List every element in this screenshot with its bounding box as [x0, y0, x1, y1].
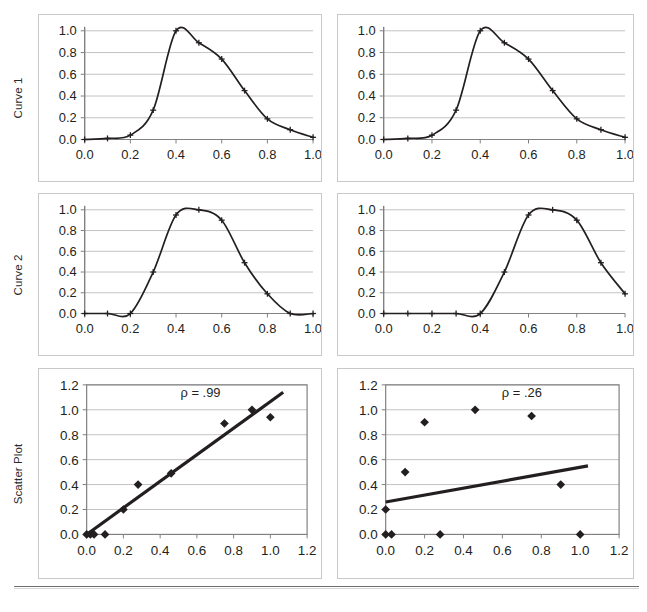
svg-text:0.8: 0.8 — [568, 147, 586, 162]
svg-text:0.0: 0.0 — [375, 147, 393, 162]
svg-text:0.4: 0.4 — [167, 147, 185, 162]
row-label-scatter-plot-text: Scatter Plot — [12, 443, 24, 504]
svg-text:ρ = .26: ρ = .26 — [502, 385, 542, 400]
svg-text:1.0: 1.0 — [616, 147, 633, 162]
row-label-curve-2-text: Curve 2 — [12, 254, 24, 295]
svg-text:1.2: 1.2 — [60, 378, 79, 393]
svg-text:1.2: 1.2 — [610, 543, 629, 558]
svg-text:0.0: 0.0 — [359, 527, 378, 542]
svg-text:1.0: 1.0 — [358, 202, 376, 217]
panel-curve1-left: 0.00.20.40.60.81.00.00.20.40.60.81.0 — [38, 14, 322, 182]
svg-text:0.8: 0.8 — [60, 428, 79, 443]
svg-text:1.0: 1.0 — [60, 403, 79, 418]
svg-text:0.8: 0.8 — [59, 223, 77, 238]
svg-text:0.0: 0.0 — [358, 306, 376, 321]
svg-text:0.4: 0.4 — [358, 89, 376, 104]
panel-curve2-left: 0.00.20.40.60.81.00.00.20.40.60.81.0 — [38, 193, 322, 356]
svg-text:0.4: 0.4 — [59, 265, 77, 280]
svg-text:0.6: 0.6 — [213, 321, 231, 336]
svg-text:0.0: 0.0 — [59, 306, 77, 321]
svg-text:1.0: 1.0 — [571, 543, 590, 558]
svg-text:0.8: 0.8 — [358, 45, 376, 60]
chart-curve2-right: 0.00.20.40.60.81.00.00.20.40.60.81.0 — [338, 194, 633, 355]
panel-curve2-right: 0.00.20.40.60.81.00.00.20.40.60.81.0 — [337, 193, 634, 356]
svg-text:0.0: 0.0 — [375, 321, 393, 336]
svg-text:0.6: 0.6 — [59, 67, 77, 82]
svg-text:0.6: 0.6 — [188, 543, 207, 558]
chart-curve2-left: 0.00.20.40.60.81.00.00.20.40.60.81.0 — [39, 194, 321, 355]
chart-curve1-right: 0.00.20.40.60.81.00.00.20.40.60.81.0 — [338, 15, 633, 181]
svg-text:0.8: 0.8 — [224, 543, 243, 558]
svg-text:0.4: 0.4 — [59, 88, 77, 103]
chart-scatter-left: 0.00.20.40.60.81.01.20.00.20.40.60.81.01… — [39, 369, 321, 578]
svg-text:0.6: 0.6 — [213, 147, 231, 162]
svg-text:0.8: 0.8 — [532, 543, 551, 558]
panel-scatter-right: 0.00.20.40.60.81.01.20.00.20.40.60.81.01… — [337, 368, 634, 579]
svg-text:1.0: 1.0 — [358, 23, 376, 38]
svg-text:0.2: 0.2 — [121, 321, 139, 336]
svg-text:0.8: 0.8 — [358, 223, 376, 238]
svg-text:0.8: 0.8 — [59, 45, 77, 60]
svg-text:0.0: 0.0 — [76, 147, 94, 162]
svg-text:1.2: 1.2 — [359, 378, 378, 393]
svg-text:0.2: 0.2 — [359, 502, 378, 517]
svg-text:0.4: 0.4 — [167, 321, 185, 336]
svg-text:0.2: 0.2 — [358, 285, 376, 300]
svg-text:0.6: 0.6 — [60, 453, 79, 468]
svg-text:1.0: 1.0 — [359, 403, 378, 418]
svg-text:0.6: 0.6 — [59, 244, 77, 259]
svg-text:0.2: 0.2 — [415, 543, 434, 558]
svg-text:1.0: 1.0 — [261, 543, 280, 558]
svg-text:0.4: 0.4 — [454, 543, 473, 558]
svg-text:0.0: 0.0 — [76, 321, 94, 336]
svg-text:ρ = .99: ρ = .99 — [181, 385, 221, 400]
svg-text:0.6: 0.6 — [358, 67, 376, 82]
svg-text:0.2: 0.2 — [358, 110, 376, 125]
svg-text:0.8: 0.8 — [258, 147, 276, 162]
svg-text:0.6: 0.6 — [359, 453, 378, 468]
svg-text:0.6: 0.6 — [520, 147, 538, 162]
row-label-scatter-plot: Scatter Plot — [0, 368, 36, 579]
svg-text:0.2: 0.2 — [60, 502, 79, 517]
svg-text:0.8: 0.8 — [359, 428, 378, 443]
svg-text:1.0: 1.0 — [304, 321, 321, 336]
panel-curve1-right: 0.00.20.40.60.81.00.00.20.40.60.81.0 — [337, 14, 634, 182]
svg-text:0.2: 0.2 — [59, 110, 77, 125]
svg-text:0.0: 0.0 — [60, 527, 79, 542]
svg-text:0.0: 0.0 — [376, 543, 395, 558]
svg-text:0.2: 0.2 — [121, 147, 139, 162]
svg-text:0.2: 0.2 — [423, 147, 441, 162]
svg-text:1.0: 1.0 — [616, 321, 633, 336]
svg-text:0.4: 0.4 — [471, 147, 489, 162]
svg-text:0.0: 0.0 — [59, 132, 77, 147]
svg-text:0.0: 0.0 — [77, 543, 96, 558]
svg-text:0.4: 0.4 — [151, 543, 170, 558]
svg-text:0.8: 0.8 — [568, 321, 586, 336]
panel-scatter-left: 0.00.20.40.60.81.01.20.00.20.40.60.81.01… — [38, 368, 322, 579]
svg-text:1.0: 1.0 — [304, 147, 321, 162]
chart-curve1-left: 0.00.20.40.60.81.00.00.20.40.60.81.0 — [39, 15, 321, 181]
svg-text:1.0: 1.0 — [59, 202, 77, 217]
svg-text:0.2: 0.2 — [114, 543, 133, 558]
figure-sheet: Curve 1 Curve 2 Scatter Plot 0.00.20.40.… — [0, 0, 647, 612]
svg-text:0.2: 0.2 — [59, 285, 77, 300]
svg-text:1.2: 1.2 — [298, 543, 317, 558]
svg-text:0.4: 0.4 — [471, 321, 489, 336]
row-label-curve-1: Curve 1 — [0, 14, 36, 182]
chart-scatter-right: 0.00.20.40.60.81.01.20.00.20.40.60.81.01… — [338, 369, 633, 578]
footer-divider — [14, 586, 639, 587]
svg-text:0.6: 0.6 — [520, 321, 538, 336]
svg-text:0.4: 0.4 — [359, 478, 378, 493]
svg-text:0.6: 0.6 — [493, 543, 512, 558]
svg-text:0.2: 0.2 — [423, 321, 441, 336]
svg-text:0.0: 0.0 — [358, 132, 376, 147]
svg-text:0.8: 0.8 — [258, 321, 276, 336]
svg-text:0.4: 0.4 — [60, 478, 79, 493]
svg-text:0.4: 0.4 — [358, 265, 376, 280]
row-label-curve-1-text: Curve 1 — [12, 78, 24, 119]
svg-text:1.0: 1.0 — [59, 23, 77, 38]
row-label-curve-2: Curve 2 — [0, 193, 36, 356]
svg-text:0.6: 0.6 — [358, 244, 376, 259]
